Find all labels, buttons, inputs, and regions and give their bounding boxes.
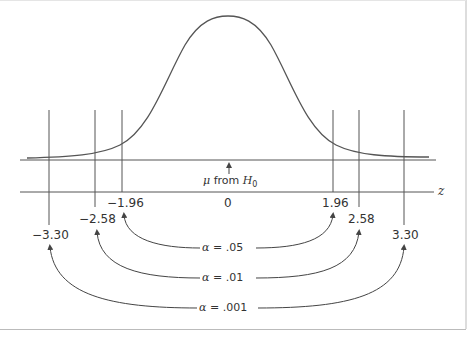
- arrow-a05-right: [256, 215, 333, 248]
- critical-neg-196: −1.96: [107, 196, 144, 210]
- critical-pos-330: 3.30: [392, 228, 419, 242]
- critical-pos-258: 2.58: [348, 212, 375, 226]
- alpha-001-label: α = .001: [197, 301, 249, 315]
- critical-pos-196: 1.96: [322, 196, 349, 210]
- arrow-a01-right: [256, 232, 359, 278]
- diagram-graphics: [0, 0, 475, 342]
- arrow-a01-left: [97, 232, 200, 278]
- arrow-a05-left: [124, 215, 200, 248]
- z-axis-label: z: [438, 184, 444, 198]
- center-tick-zero: 0: [224, 196, 232, 210]
- critical-neg-258: −2.58: [79, 212, 116, 226]
- alpha-05-label: α = .05: [200, 241, 245, 255]
- alpha-01-label: α = .01: [200, 271, 245, 285]
- mu-from-h0-label: μ from H0: [203, 174, 257, 192]
- critical-neg-330: −3.30: [32, 228, 69, 242]
- normal-distribution-diagram: z μ from H0 0 −1.96 −2.58 −3.30 1.96 2.5…: [0, 0, 475, 342]
- normal-curve: [27, 16, 429, 158]
